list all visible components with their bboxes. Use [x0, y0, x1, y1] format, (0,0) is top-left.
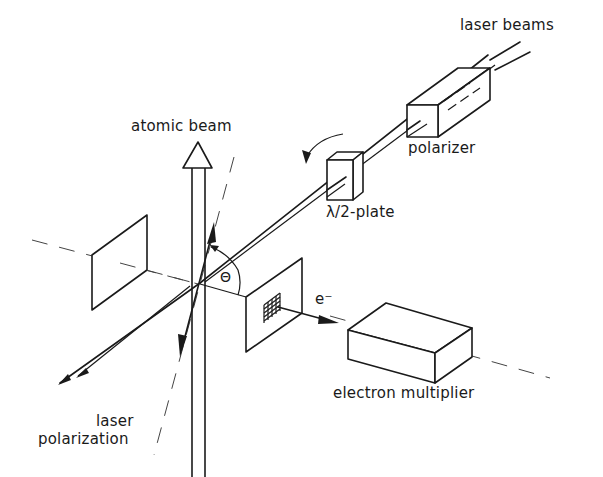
left-plate [92, 215, 147, 310]
label-half-wave-plate: λ/2-plate [326, 205, 395, 220]
label-atomic-beam: atomic beam [131, 119, 232, 134]
label-laser-polarization-line2: polarization [38, 432, 129, 447]
atomic-beam-arrowhead [183, 142, 212, 168]
label-laser-beams: laser beams [460, 18, 554, 33]
label-laser-polarization-line1: laser [96, 414, 134, 429]
aperture-plate [246, 258, 302, 352]
label-electron-multiplier: electron multiplier [333, 386, 474, 401]
label-theta: Θ [220, 270, 231, 284]
atomic-beam [183, 142, 212, 477]
half-wave-plate [327, 152, 363, 200]
polarization-vector [178, 222, 216, 357]
label-polarizer: polarizer [408, 141, 475, 156]
label-electron: e⁻ [315, 292, 333, 307]
experimental-setup-diagram [0, 0, 603, 477]
electron-multiplier-box [348, 303, 472, 383]
polarizer-box [407, 68, 490, 137]
